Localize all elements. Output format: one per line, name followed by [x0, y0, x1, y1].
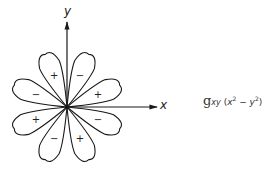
caption-subscript: xy [211, 98, 220, 107]
plus-sign: + [76, 133, 84, 144]
caption-minus: − [236, 97, 249, 107]
minus-sign: − [94, 114, 102, 125]
orbital-diagram: +−+−+−+− [0, 0, 272, 177]
minus-sign: − [76, 70, 84, 81]
y-axis-label: y [64, 4, 71, 18]
caption-close: ) [259, 97, 263, 107]
minus-sign: − [32, 89, 40, 100]
plus-sign: + [50, 70, 58, 81]
minus-sign: − [50, 133, 58, 144]
plus-sign: + [94, 89, 102, 100]
orbital-caption: gxy (x2 − y2) [203, 93, 262, 108]
x-axis-label: x [160, 98, 167, 112]
plus-sign: + [32, 114, 40, 125]
